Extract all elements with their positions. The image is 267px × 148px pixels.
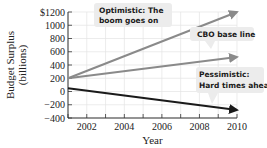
y-tick-label: 0 bbox=[60, 86, 65, 97]
x-tick-label: 2010 bbox=[227, 121, 247, 132]
callout-text: Hard times ahead bbox=[199, 81, 267, 90]
callout-pointer bbox=[205, 41, 215, 49]
callout-1: CBO base line bbox=[190, 27, 255, 49]
y-axis-title-line: (billions) bbox=[16, 45, 29, 86]
y-axis-title: Budget Surplus(billions) bbox=[4, 31, 29, 99]
x-tick-label: 2008 bbox=[189, 121, 209, 132]
x-tick-label: 2004 bbox=[114, 121, 134, 132]
callout-2: Pessimistic:Hard times ahead bbox=[196, 67, 267, 104]
callout-text: Optimistic: The bbox=[99, 6, 164, 15]
y-tick-label: 800 bbox=[50, 33, 65, 44]
callout-0: Optimistic: Theboom goes on bbox=[94, 3, 172, 27]
callout-text: CBO base line bbox=[197, 30, 255, 39]
y-tick-label: −200 bbox=[44, 99, 65, 110]
budget-surplus-chart: −400−20002004006008001000$12002002200420… bbox=[0, 0, 267, 148]
callout-text: boom goes on bbox=[99, 16, 158, 25]
x-tick-label: 2006 bbox=[152, 121, 172, 132]
y-tick-label: 1000 bbox=[45, 20, 65, 31]
y-axis-title-line: Budget Surplus bbox=[4, 31, 16, 99]
x-tick-label: 2002 bbox=[77, 121, 97, 132]
y-tick-label: 600 bbox=[50, 46, 65, 57]
x-axis-title: Year bbox=[142, 134, 163, 146]
callout-pointer bbox=[208, 93, 218, 104]
callout-text: Pessimistic: bbox=[199, 70, 250, 79]
y-tick-label: −400 bbox=[44, 113, 65, 124]
y-tick-label: 200 bbox=[50, 73, 65, 84]
y-tick-label: 400 bbox=[50, 60, 65, 71]
y-tick-label: $1200 bbox=[40, 7, 65, 18]
